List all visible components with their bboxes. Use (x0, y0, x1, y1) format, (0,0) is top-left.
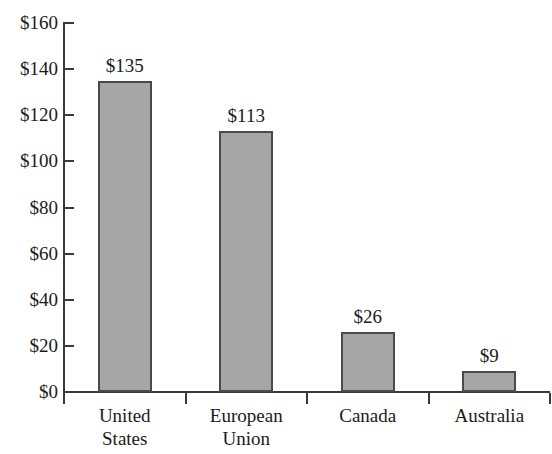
x-axis-category-label: Canada (298, 404, 438, 427)
y-axis-tick-label: $0 (0, 381, 58, 403)
category-label-line: United (55, 404, 195, 427)
category-label-line: Australia (419, 404, 552, 427)
bar-value-label: $113 (186, 105, 306, 126)
y-axis-tick-mark (63, 160, 74, 162)
y-axis-tick-label: $80 (0, 197, 58, 219)
bar-value-label: $135 (65, 55, 185, 76)
x-axis-tick-mark (549, 393, 551, 404)
x-axis-tick-mark (428, 393, 430, 404)
y-axis-tick-mark (63, 345, 74, 347)
x-axis-category-label: EuropeanUnion (176, 404, 316, 450)
bar (462, 371, 516, 392)
bar-chart: $0$20$40$60$80$100$120$140$160 $135$113$… (0, 0, 552, 454)
x-axis-category-label: Australia (419, 404, 552, 427)
y-axis-tick-mark (63, 22, 74, 24)
y-axis-tick-mark (63, 114, 74, 116)
category-label-line: European (176, 404, 316, 427)
y-axis-tick-mark (63, 299, 74, 301)
bar-value-label: $9 (429, 345, 549, 366)
x-axis-tick-mark (306, 393, 308, 404)
y-axis-tick-label: $60 (0, 243, 58, 265)
category-label-line: Union (176, 427, 316, 450)
y-axis-tick-label: $100 (0, 150, 58, 172)
y-axis-tick-label: $40 (0, 289, 58, 311)
bar-value-label: $26 (308, 306, 428, 327)
x-axis-tick-mark (185, 393, 187, 404)
y-axis-tick-label: $160 (0, 12, 58, 34)
y-axis-tick-label: $120 (0, 104, 58, 126)
category-label-line: States (55, 427, 195, 450)
bar (98, 81, 152, 392)
bar (341, 332, 395, 392)
category-label-line: Canada (298, 404, 438, 427)
y-axis-tick-label: $20 (0, 335, 58, 357)
y-axis-tick-mark (63, 207, 74, 209)
x-axis-category-label: UnitedStates (55, 404, 195, 450)
y-axis-tick-label: $140 (0, 58, 58, 80)
bar (219, 131, 273, 392)
x-axis-tick-mark (63, 393, 65, 404)
y-axis-tick-mark (63, 253, 74, 255)
